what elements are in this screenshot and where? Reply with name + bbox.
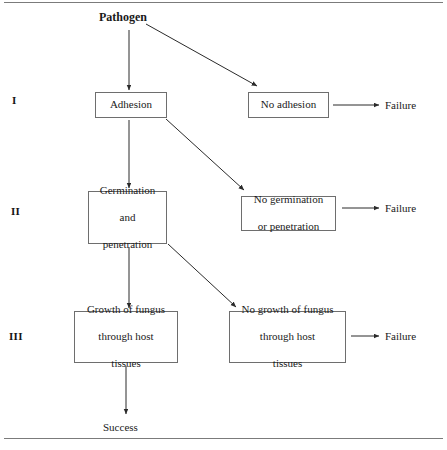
- node-no-germination-line-2: or penetration: [246, 220, 331, 234]
- node-adhesion-label: Adhesion: [100, 98, 162, 112]
- edge-adhesion-to-no-germination: [166, 119, 244, 190]
- node-no-growth-line-2: through host: [234, 330, 341, 344]
- node-germination-lines: Germination and penetration: [93, 184, 162, 252]
- outcome-failure-stage-ii: Failure: [385, 202, 416, 215]
- node-no-growth-of-fungus: No growth of fungus through host tissues: [229, 311, 346, 363]
- bottom-horizontal-rule: [4, 438, 443, 439]
- node-no-germination-or-penetration: No germination or penetration: [241, 196, 336, 231]
- outcome-failure-stage-i: Failure: [385, 99, 416, 112]
- node-growth-of-fungus: Growth of fungus through host tissues: [74, 311, 178, 363]
- node-no-growth-line-3: tissues: [234, 357, 341, 371]
- node-germination-line-3: penetration: [93, 238, 162, 252]
- node-germination-line-1: Germination: [93, 184, 162, 198]
- node-growth-line-2: through host: [79, 330, 173, 344]
- outcome-failure-stage-iii: Failure: [385, 330, 416, 343]
- node-growth-lines: Growth of fungus through host tissues: [79, 303, 173, 371]
- node-no-adhesion: No adhesion: [248, 92, 329, 118]
- node-germination-and-penetration: Germination and penetration: [88, 191, 167, 244]
- node-no-growth-line-1: No growth of fungus: [234, 303, 341, 317]
- flow-arrows-layer: [0, 0, 447, 450]
- stage-label-iii: III: [9, 330, 23, 342]
- node-no-growth-lines: No growth of fungus through host tissues: [234, 303, 341, 371]
- node-no-germination-lines: No germination or penetration: [246, 193, 331, 234]
- node-germination-line-2: and: [93, 211, 162, 225]
- node-no-adhesion-label: No adhesion: [253, 98, 324, 112]
- outcome-success: Success: [103, 421, 138, 434]
- edge-germination-to-no-growth: [168, 244, 236, 307]
- flowchart-figure: I II III Pathogen Adhesion No adhesion G…: [0, 0, 447, 450]
- node-growth-line-3: tissues: [79, 357, 173, 371]
- pathogen-title: Pathogen: [99, 11, 147, 24]
- node-growth-line-1: Growth of fungus: [79, 303, 173, 317]
- node-no-germination-line-1: No germination: [246, 193, 331, 207]
- edge-pathogen-to-no-adhesion: [146, 24, 257, 86]
- stage-label-i: I: [12, 94, 17, 106]
- stage-label-ii: II: [11, 205, 20, 217]
- node-adhesion: Adhesion: [95, 92, 167, 118]
- top-horizontal-rule: [4, 2, 443, 3]
